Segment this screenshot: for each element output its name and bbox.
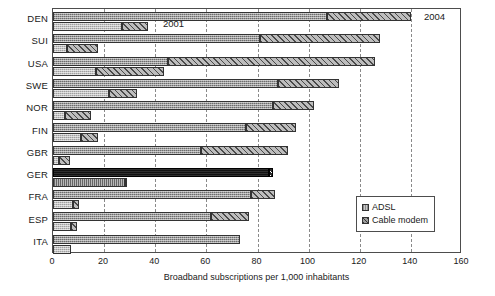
- bar-esp-2004: [53, 212, 249, 221]
- bar-segment-usa-2001-adsl: [53, 67, 96, 76]
- legend-item-adsl: ADSL: [362, 201, 428, 214]
- y-axis-label-ita: ITA: [2, 236, 48, 247]
- bar-fin-2004: [53, 123, 296, 132]
- bar-segment-swe-2004-cable-modem: [278, 79, 339, 88]
- bar-row-den: [53, 12, 460, 34]
- bar-segment-nor-2004-adsl: [53, 101, 273, 110]
- bar-segment-fin-2004-adsl: [53, 123, 246, 132]
- x-tick-label-100: 100: [288, 256, 328, 267]
- legend-swatch-cable-modem-icon: [362, 217, 369, 224]
- bar-den-2004: [53, 12, 411, 21]
- bar-fin-2001: [53, 133, 98, 142]
- bar-esp-2001: [53, 222, 77, 231]
- y-axis-label-fra: FRA: [2, 191, 48, 202]
- bar-row-sui: [53, 34, 460, 56]
- bar-nor-2004: [53, 101, 314, 110]
- annotation-year-2001: 2001: [163, 18, 184, 29]
- bar-sui-2004: [53, 34, 380, 43]
- bar-row-nor: [53, 101, 460, 123]
- bar-ger-2001: [53, 178, 127, 187]
- x-tick-label-80: 80: [237, 256, 277, 267]
- bar-segment-esp-2001-cable-modem: [71, 222, 77, 231]
- bar-den-2001: [53, 22, 148, 31]
- bar-segment-usa-2004-adsl: [53, 57, 168, 66]
- bar-row-fin: [53, 123, 460, 145]
- bar-row-usa: [53, 57, 460, 79]
- bar-segment-fin-2001-cable-modem: [81, 133, 98, 142]
- bar-segment-ger-2004-adsl: [53, 168, 269, 177]
- bar-segment-sui-2001-adsl: [53, 44, 67, 53]
- bar-segment-nor-2001-adsl: [53, 111, 65, 120]
- bar-segment-den-2004-cable-modem: [327, 12, 411, 21]
- y-axis-label-esp: ESP: [2, 214, 48, 225]
- bar-swe-2001: [53, 89, 137, 98]
- bar-segment-sui-2004-cable-modem: [260, 34, 380, 43]
- bar-segment-den-2001-adsl: [53, 22, 122, 31]
- bar-segment-swe-2001-cable-modem: [109, 89, 137, 98]
- bar-ita-2001: [53, 245, 71, 254]
- bar-segment-ita-2001-adsl: [53, 245, 71, 254]
- bar-segment-gbr-2004-cable-modem: [201, 146, 288, 155]
- bar-gbr-2001: [53, 156, 70, 165]
- bar-fra-2004: [53, 190, 275, 199]
- y-axis-label-sui: SUI: [2, 35, 48, 46]
- bar-gbr-2004: [53, 146, 288, 155]
- bar-segment-fra-2004-cable-modem: [251, 190, 275, 199]
- y-axis-label-usa: USA: [2, 58, 48, 69]
- bar-segment-ger-2004-cable-modem: [269, 168, 273, 177]
- y-axis-label-nor: NOR: [2, 102, 48, 113]
- bar-segment-fin-2004-cable-modem: [246, 123, 296, 132]
- x-axis-title: Broadband subscriptions per 1,000 inhabi…: [52, 272, 461, 282]
- x-tick-label-60: 60: [185, 256, 225, 267]
- y-axis-label-gbr: GBR: [2, 147, 48, 158]
- y-axis-label-ger: GER: [2, 169, 48, 180]
- x-tick-label-160: 160: [441, 256, 481, 267]
- bar-usa-2004: [53, 57, 375, 66]
- legend-item-cable-modem: Cable modem: [362, 214, 428, 227]
- bar-fra-2001: [53, 200, 79, 209]
- bar-row-ger: [53, 168, 460, 190]
- bar-segment-fra-2004-adsl: [53, 190, 251, 199]
- y-axis-category-labels: DENSUIUSASWENORFINGBRGERFRAESPITA: [0, 8, 48, 253]
- bar-usa-2001: [53, 67, 164, 76]
- bar-segment-usa-2001-cable-modem: [96, 67, 164, 76]
- bar-segment-esp-2004-adsl: [53, 212, 211, 221]
- annotation-year-2004: 2004: [424, 11, 445, 22]
- x-tick-label-40: 40: [134, 256, 174, 267]
- bar-segment-ger-2001-cable-modem: [125, 178, 127, 187]
- bar-segment-gbr-2004-adsl: [53, 146, 201, 155]
- bar-segment-esp-2001-adsl: [53, 222, 71, 231]
- legend-swatch-adsl-icon: [362, 204, 369, 211]
- legend: ADSL Cable modem: [356, 196, 435, 232]
- x-tick-label-20: 20: [83, 256, 123, 267]
- bar-segment-den-2001-cable-modem: [122, 22, 148, 31]
- y-axis-label-swe: SWE: [2, 80, 48, 91]
- bar-row-swe: [53, 79, 460, 101]
- x-tick-label-120: 120: [339, 256, 379, 267]
- bar-segment-fin-2001-adsl: [53, 133, 81, 142]
- bar-ger-2004: [53, 168, 273, 177]
- y-axis-label-fin: FIN: [2, 125, 48, 136]
- bar-row-ita: [53, 235, 460, 257]
- bar-segment-fra-2001-cable-modem: [73, 200, 78, 209]
- broadband-subscriptions-bar-chart: DENSUIUSASWENORFINGBRGERFRAESPITA 2001 2…: [0, 0, 495, 296]
- bar-segment-den-2004-adsl: [53, 12, 327, 21]
- bar-sui-2001: [53, 44, 98, 53]
- bar-segment-gbr-2001-cable-modem: [59, 156, 69, 165]
- bar-segment-esp-2004-cable-modem: [211, 212, 248, 221]
- x-tick-label-0: 0: [32, 256, 72, 267]
- bar-segment-swe-2001-adsl: [53, 89, 109, 98]
- legend-label-cable-modem: Cable modem: [372, 214, 428, 227]
- bar-segment-usa-2004-cable-modem: [168, 57, 375, 66]
- legend-label-adsl: ADSL: [372, 201, 396, 214]
- bar-swe-2004: [53, 79, 339, 88]
- bar-segment-swe-2004-adsl: [53, 79, 278, 88]
- bar-nor-2001: [53, 111, 91, 120]
- bar-segment-ita-2004-adsl: [53, 235, 240, 244]
- bar-segment-nor-2004-cable-modem: [273, 101, 314, 110]
- bar-row-gbr: [53, 146, 460, 168]
- bar-segment-ger-2001-adsl: [53, 178, 125, 187]
- bar-segment-nor-2001-cable-modem: [65, 111, 92, 120]
- x-tick-label-140: 140: [390, 256, 430, 267]
- bar-segment-sui-2001-cable-modem: [67, 44, 98, 53]
